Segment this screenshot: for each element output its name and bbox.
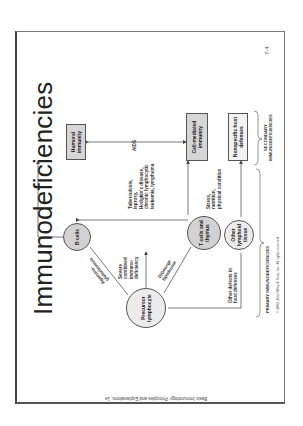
- t-cells-thymus-node: T cells and thymus: [187, 216, 221, 250]
- page-number: 7-4: [264, 46, 270, 55]
- slide-rotated: Immunodeficiencies 7-4 Humoral immunity …: [16, 32, 286, 405]
- other-lymphoid-tissue-node: Other lymphoid tissue: [224, 220, 254, 250]
- cell-mediated-immunity-box: Cell-mediated immunity: [186, 113, 208, 161]
- scid-label: Severe combined immuno- deficiency: [118, 257, 140, 279]
- other-defects-label: Other defects in host defenses: [228, 268, 239, 303]
- copyright-text: © 2003 John Wiley & Sons, Inc. All right…: [276, 236, 280, 313]
- stress-label: Stress, nutrition, physical condition: [206, 169, 222, 209]
- nonspecific-host-defenses-box: Nonspecific host defenses: [228, 113, 248, 161]
- aids-label: AIDS: [132, 140, 137, 151]
- slide-footer: Basic Immunology: Principles and Explana…: [105, 396, 207, 401]
- b-cells-node: B cells: [63, 223, 91, 251]
- secondary-immunodeficiencies-label: SECONDARY IMMUNODEFICIENCIES: [263, 114, 274, 161]
- secondary-causes-label: Tuberculosis, leprosy, Hodgkin's disease…: [128, 164, 155, 209]
- slide-title: Immunodeficiencies: [28, 82, 59, 315]
- precursor-lymphocyte-node: Precursor lymphocyte: [126, 288, 166, 328]
- primary-immunodeficiencies-label: PRIMARY IMMUNODEFICIENCIES: [265, 246, 270, 313]
- humoral-immunity-box: Humoral immunity: [66, 124, 86, 160]
